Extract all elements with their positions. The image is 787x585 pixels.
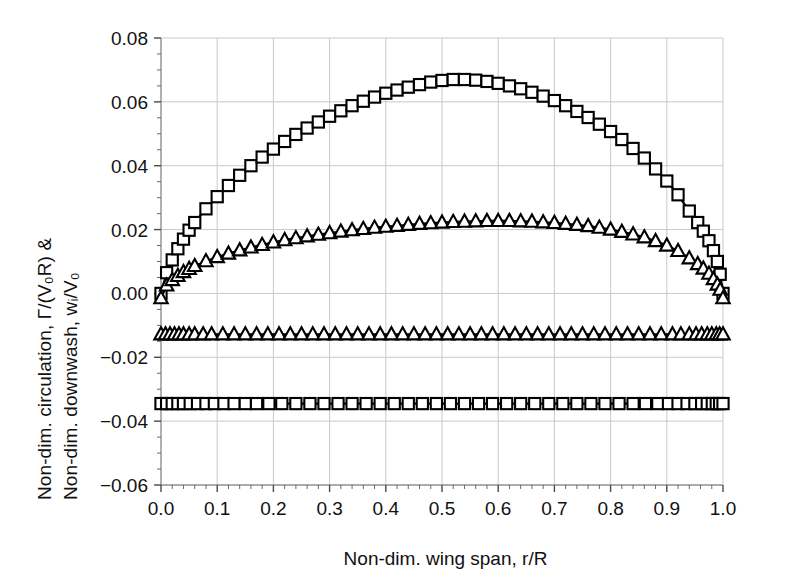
marker-square xyxy=(346,398,357,409)
marker-square xyxy=(549,95,560,106)
marker-square xyxy=(332,398,343,409)
marker-square xyxy=(571,106,582,117)
marker-square xyxy=(605,126,616,137)
marker-square xyxy=(684,205,695,216)
marker-square xyxy=(304,398,315,409)
grid-lines xyxy=(161,38,723,485)
marker-square xyxy=(459,74,470,85)
y-tick-label: 0.08 xyxy=(111,28,148,49)
marker-square xyxy=(459,398,470,409)
marker-square xyxy=(627,398,638,409)
x-tick-label: 0.6 xyxy=(485,498,511,519)
y-tick-label: −0.04 xyxy=(100,411,149,432)
marker-square xyxy=(493,78,504,89)
marker-square xyxy=(616,134,627,145)
marker-square xyxy=(652,398,663,409)
series-downwash-square xyxy=(155,398,728,409)
marker-square xyxy=(712,256,723,267)
marker-square xyxy=(324,111,335,122)
marker-square xyxy=(346,100,357,111)
marker-square xyxy=(223,180,234,191)
marker-square xyxy=(571,398,582,409)
x-tick-label: 0.7 xyxy=(541,498,567,519)
marker-square xyxy=(436,75,447,86)
marker-square xyxy=(389,398,400,409)
marker-square xyxy=(369,91,380,102)
y-tick-label: 0.04 xyxy=(111,156,148,177)
marker-square xyxy=(245,160,256,171)
marker-square xyxy=(661,175,672,186)
x-tick-label: 0.9 xyxy=(654,498,680,519)
marker-square xyxy=(263,398,274,409)
marker-square xyxy=(417,398,428,409)
marker-square xyxy=(403,398,414,409)
marker-square xyxy=(240,398,251,409)
plot-canvas: 0.080.060.040.020.00−0.02−0.04−0.060.00.… xyxy=(0,0,787,585)
marker-square xyxy=(234,170,245,181)
marker-square xyxy=(538,91,549,102)
marker-square xyxy=(501,398,512,409)
marker-square xyxy=(276,398,287,409)
marker-square xyxy=(257,151,268,162)
y-tick-label: −0.02 xyxy=(100,347,148,368)
x-axis-label: Non-dim. wing span, r/R xyxy=(0,548,787,570)
marker-square xyxy=(425,76,436,87)
marker-square xyxy=(473,398,484,409)
marker-square xyxy=(526,87,537,98)
marker-square xyxy=(599,398,610,409)
marker-square xyxy=(543,398,554,409)
marker-square xyxy=(515,398,526,409)
x-tick-label: 0.1 xyxy=(204,498,230,519)
marker-square xyxy=(717,398,728,409)
x-tick-label: 1.0 xyxy=(710,498,736,519)
marker-square xyxy=(639,152,650,163)
marker-square xyxy=(318,398,329,409)
marker-square xyxy=(361,398,372,409)
marker-square xyxy=(585,398,596,409)
marker-square xyxy=(268,144,279,155)
marker-square xyxy=(403,82,414,93)
marker-square xyxy=(613,398,624,409)
marker-square xyxy=(212,191,223,202)
x-axis-label-text: Non-dim. wing span, r/R xyxy=(344,548,548,569)
x-tick-label: 0.8 xyxy=(597,498,623,519)
marker-square xyxy=(470,75,481,86)
marker-square xyxy=(504,80,515,91)
marker-square xyxy=(515,83,526,94)
marker-square xyxy=(290,398,301,409)
marker-square xyxy=(279,136,290,147)
marker-square xyxy=(290,129,301,140)
marker-square xyxy=(302,122,313,133)
tick-marks xyxy=(154,38,723,492)
marker-square xyxy=(650,163,661,174)
marker-square xyxy=(200,203,211,214)
marker-square xyxy=(448,74,459,85)
y-tick-label: 0.06 xyxy=(111,92,148,113)
marker-square xyxy=(481,76,492,87)
x-tick-label: 0.2 xyxy=(260,498,286,519)
marker-square xyxy=(391,84,402,95)
y-axis-label: Non-dim. circulation, Γ/(V₀R) & Non-dim.… xyxy=(0,0,90,520)
marker-square xyxy=(251,398,262,409)
marker-square xyxy=(594,119,605,130)
marker-square xyxy=(228,398,239,409)
x-tick-label: 0.4 xyxy=(373,498,400,519)
marker-square xyxy=(627,143,638,154)
y-tick-labels: 0.080.060.040.020.00−0.02−0.04−0.06 xyxy=(100,28,149,496)
marker-square xyxy=(487,398,498,409)
chart-figure: Non-dim. circulation, Γ/(V₀R) & Non-dim.… xyxy=(0,0,787,585)
x-tick-label: 0.3 xyxy=(316,498,342,519)
y-tick-label: 0.02 xyxy=(111,220,148,241)
marker-square xyxy=(560,100,571,111)
y-tick-label: −0.06 xyxy=(100,475,148,496)
marker-square xyxy=(313,116,324,127)
marker-square xyxy=(358,96,369,107)
marker-square xyxy=(335,105,346,116)
x-tick-label: 0.0 xyxy=(148,498,174,519)
marker-square xyxy=(529,398,540,409)
marker-square xyxy=(708,245,719,256)
marker-square xyxy=(583,112,594,123)
y-axis-label-line2: Non-dim. downwash, wᵢ/V₀ xyxy=(60,272,82,500)
marker-square xyxy=(414,79,425,90)
marker-square xyxy=(640,398,651,409)
